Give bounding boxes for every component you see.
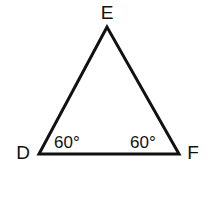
vertex-label-e: E	[101, 2, 114, 23]
triangle-diagram: E D F 60° 60°	[0, 0, 212, 203]
angle-label-f: 60°	[130, 133, 156, 152]
vertex-label-d: D	[16, 142, 30, 163]
vertex-label-f: F	[187, 142, 199, 163]
angle-label-d: 60°	[54, 133, 80, 152]
